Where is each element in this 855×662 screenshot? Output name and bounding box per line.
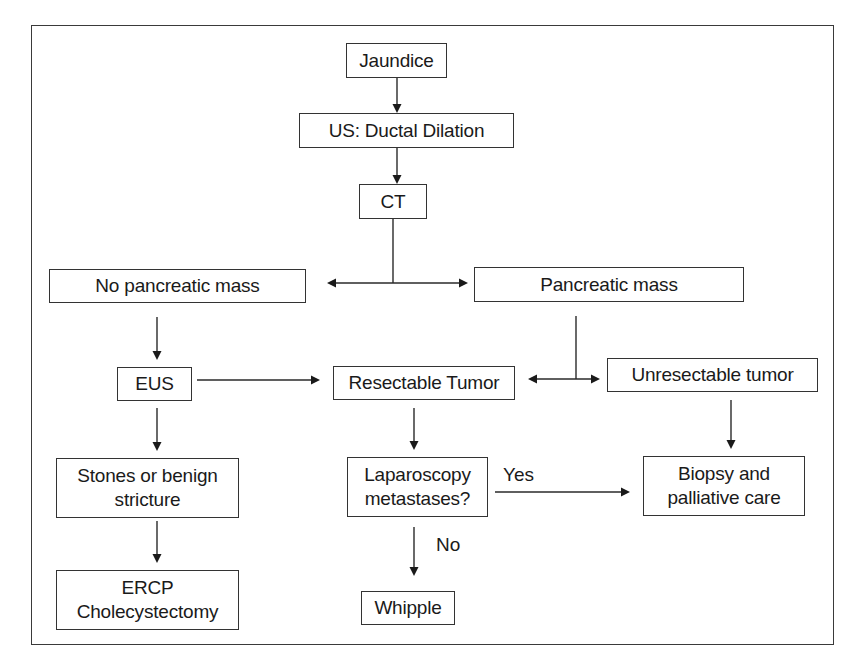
node-us-ductal-dilation: US: Ductal Dilation [299,113,514,148]
node-unresectable-tumor: Unresectable tumor [607,358,818,392]
node-no-pancreatic-mass: No pancreatic mass [49,269,306,303]
node-ct: CT [359,184,427,219]
node-resectable-tumor: Resectable Tumor [333,366,515,400]
node-jaundice: Jaundice [346,43,447,78]
node-eus: EUS [117,367,192,401]
node-stones-benign-stricture: Stones or benign stricture [56,458,239,518]
node-biopsy-palliative-care: Biopsy and palliative care [643,456,805,516]
node-laparoscopy-metastases: Laparoscopy metastases? [347,457,488,517]
edge-label-no: No [436,534,460,556]
node-ercp-cholecystectomy: ERCP Cholecystectomy [56,570,239,630]
edge-label-yes: Yes [503,464,534,486]
node-whipple: Whipple [361,591,455,625]
node-pancreatic-mass: Pancreatic mass [474,267,744,302]
